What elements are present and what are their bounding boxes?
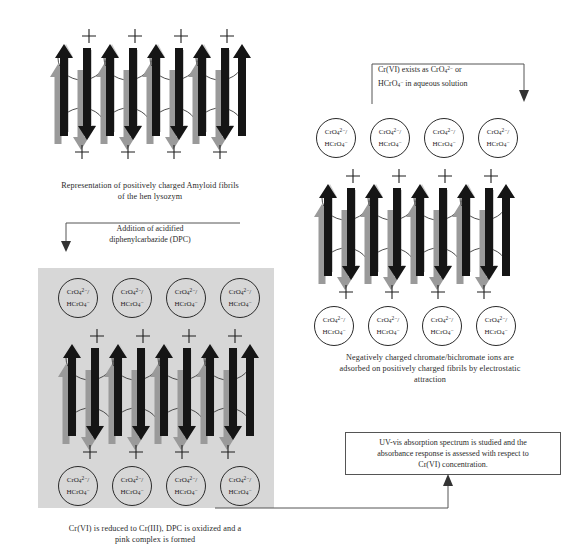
fibril-illustration-top-right xyxy=(300,158,524,316)
ion-bottom-formula: HCrO4− xyxy=(323,326,346,338)
chem-row-bottomleft-top: CrO42−/ HCrO4− CrO42−/ HCrO4− CrO42−/ HC… xyxy=(58,278,260,318)
chem-ion-circle: CrO42−/ HCrO4− xyxy=(112,278,152,318)
ion-top-formula: CrO42−/ xyxy=(175,286,197,298)
chem-ion-circle: CrO42−/ HCrO4− xyxy=(220,278,260,318)
ion-top-formula: CrO42−/ xyxy=(175,474,197,486)
uv-vis-line2: absorbance response is assessed with res… xyxy=(352,448,554,459)
top-right-caption-line2: adsorbed on positively charged fibrils b… xyxy=(292,363,568,374)
ion-top-formula: CrO42−/ xyxy=(323,314,345,326)
ion-bottom-formula: HCrO4− xyxy=(121,486,144,498)
top-left-caption-line2: of the hen lysozym xyxy=(26,191,274,202)
ion-top-formula: CrO42−/ xyxy=(325,126,347,138)
top-right-caption-line1: Negatively charged chromate/bichromate i… xyxy=(292,352,568,363)
ion-top-formula: CrO42−/ xyxy=(433,126,455,138)
ion-bottom-formula: HCrO4− xyxy=(487,138,510,150)
ion-top-formula: CrO42−/ xyxy=(377,314,399,326)
ion-bottom-formula: HCrO4− xyxy=(67,298,90,310)
chem-ion-circle: CrO42−/ HCrO4− xyxy=(112,466,152,506)
ion-bottom-formula: HCrO4− xyxy=(325,138,348,150)
uv-vis-line1: UV-vis absorption spectrum is studied an… xyxy=(352,437,554,448)
ion-top-formula: CrO42−/ xyxy=(121,474,143,486)
cr6-species-note: Cr(VI) exists as CrO42− or HCrO4− in aqu… xyxy=(378,63,524,92)
chem-row-topright-bottom: CrO42−/ HCrO4− CrO42−/ HCrO4− CrO42−/ HC… xyxy=(314,306,516,346)
top-left-caption: Representation of positively charged Amy… xyxy=(26,180,274,202)
uv-vis-connector xyxy=(215,470,465,512)
ion-bottom-formula: HCrO4− xyxy=(175,486,198,498)
bottom-left-caption: Cr(VI) is reduced to Cr(III), DPC is oxi… xyxy=(26,523,284,545)
uv-vis-measurement-box: UV-vis absorption spectrum is studied an… xyxy=(345,432,561,475)
ion-top-formula: CrO42−/ xyxy=(67,474,89,486)
cr6-line1-prefix: Cr(VI) exists as CrO xyxy=(378,65,444,74)
cr6-line1-suffix: or xyxy=(453,65,462,74)
uv-vis-line3: Cr(VI) concentration. xyxy=(352,459,554,470)
ion-bottom-formula: HCrO4− xyxy=(175,298,198,310)
dpc-addition-note: Addition of acidified diphenylcarbazide … xyxy=(70,223,230,245)
ion-top-formula: CrO42−/ xyxy=(229,286,251,298)
dpc-addition-line2: diphenylcarbazide (DPC) xyxy=(70,234,230,245)
chem-ion-circle: CrO42−/ HCrO4− xyxy=(166,278,206,318)
chem-ion-circle: CrO42−/ HCrO4− xyxy=(316,118,356,158)
ion-bottom-formula: HCrO4− xyxy=(229,298,252,310)
bottom-left-caption-line2: pink complex is formed xyxy=(26,534,284,545)
ion-bottom-formula: HCrO4− xyxy=(431,326,454,338)
ion-bottom-formula: HCrO4− xyxy=(485,326,508,338)
ion-bottom-formula: HCrO4− xyxy=(121,298,144,310)
ion-top-formula: CrO42−/ xyxy=(379,126,401,138)
top-right-caption: Negatively charged chromate/bichromate i… xyxy=(292,352,568,385)
diagram-canvas: Representation of positively charged Amy… xyxy=(0,0,572,556)
cr6-line2-prefix: HCrO xyxy=(378,80,398,89)
ion-bottom-formula: HCrO4− xyxy=(433,138,456,150)
top-left-caption-line1: Representation of positively charged Amy… xyxy=(26,180,274,191)
cr6-species-line1: Cr(VI) exists as CrO42− or xyxy=(378,63,524,77)
ion-top-formula: CrO42−/ xyxy=(487,126,509,138)
ion-bottom-formula: HCrO4− xyxy=(67,486,90,498)
chem-ion-circle: CrO42−/ HCrO4− xyxy=(368,306,408,346)
chem-ion-circle: CrO42−/ HCrO4− xyxy=(314,306,354,346)
cr6-species-line2: HCrO4− in aqueous solution xyxy=(378,77,524,91)
chem-ion-circle: CrO42−/ HCrO4− xyxy=(424,118,464,158)
chem-row-topright-top: CrO42−/ HCrO4− CrO42−/ HCrO4− CrO42−/ HC… xyxy=(316,118,518,158)
top-right-caption-line3: attraction xyxy=(292,374,568,385)
chem-ion-circle: CrO42−/ HCrO4− xyxy=(370,118,410,158)
ion-top-formula: CrO42−/ xyxy=(121,286,143,298)
chem-ion-circle: CrO42−/ HCrO4− xyxy=(58,278,98,318)
ion-bottom-formula: HCrO4− xyxy=(377,326,400,338)
ion-top-formula: CrO42−/ xyxy=(431,314,453,326)
fibril-illustration-bottom-left xyxy=(44,318,268,476)
cr6-line2-suffix: in aqueous solution xyxy=(403,80,467,89)
chem-ion-circle: CrO42−/ HCrO4− xyxy=(476,306,516,346)
chem-ion-circle: CrO42−/ HCrO4− xyxy=(422,306,462,346)
bottom-left-caption-line1: Cr(VI) is reduced to Cr(III), DPC is oxi… xyxy=(26,523,284,534)
chem-ion-circle: CrO42−/ HCrO4− xyxy=(166,466,206,506)
chem-ion-circle: CrO42−/ HCrO4− xyxy=(58,466,98,506)
ion-top-formula: CrO42−/ xyxy=(67,286,89,298)
fibril-illustration-top-left xyxy=(36,18,260,176)
ion-bottom-formula: HCrO4− xyxy=(379,138,402,150)
chem-ion-circle: CrO42−/ HCrO4− xyxy=(478,118,518,158)
ion-top-formula: CrO42−/ xyxy=(485,314,507,326)
dpc-addition-line1: Addition of acidified xyxy=(70,223,230,234)
